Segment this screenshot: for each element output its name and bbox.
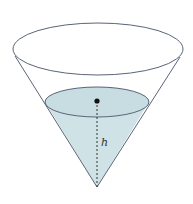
surface-center-dot xyxy=(94,98,99,103)
cone-top-rim xyxy=(13,23,183,75)
cone-svg: h xyxy=(0,0,193,204)
cone-diagram: h xyxy=(0,0,193,204)
height-label: h xyxy=(101,136,108,149)
